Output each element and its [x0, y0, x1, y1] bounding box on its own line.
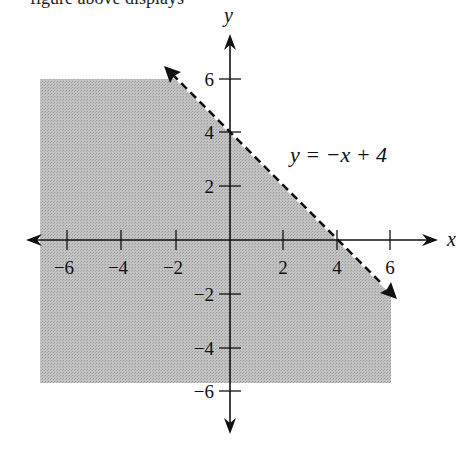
- inequality-graph: x y −6 −4 −2 2 4 6 6 4 2 −2 −4 −6 y = −x…: [0, 0, 472, 452]
- y-tick-label: −2: [194, 284, 214, 305]
- x-tick-label: −4: [108, 257, 129, 278]
- y-tick-label: 2: [205, 176, 215, 197]
- y-tick-label: 4: [205, 122, 215, 143]
- x-tick-label: 4: [332, 257, 342, 278]
- equation-label: y = −x + 4: [288, 142, 387, 167]
- y-tick-label: −6: [194, 381, 214, 402]
- x-tick-label: −2: [163, 257, 183, 278]
- y-tick-label: −4: [194, 338, 215, 359]
- y-axis-label: y: [222, 4, 233, 27]
- y-tick-label: 6: [205, 69, 215, 90]
- x-tick-label: 2: [278, 257, 288, 278]
- shaded-region: [40, 79, 391, 383]
- x-tick-label: −6: [54, 257, 74, 278]
- x-axis-label: x: [446, 228, 456, 250]
- x-tick-label: 6: [385, 257, 395, 278]
